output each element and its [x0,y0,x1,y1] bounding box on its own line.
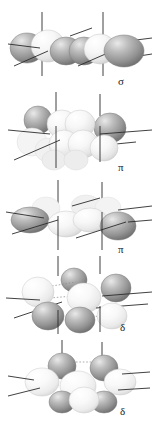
orbital-figure: σ [0,0,158,424]
pi-orbital-horizontal-diagram [0,176,158,260]
orbital-label-sigma: σ [118,76,124,87]
orbital-panel-pi-2: π [0,176,158,260]
orbital-panel-delta-2: δ [0,338,158,424]
orbital-label-delta-1: δ [120,322,125,333]
delta-orbital-1-diagram [0,254,158,340]
orbital-label-pi-1: π [118,162,124,173]
orbital-panel-pi-1: π [0,90,158,178]
sigma-orbital-diagram [0,4,158,92]
pi-orbital-vertical-diagram [0,90,158,178]
lobe-group-right [100,212,136,240]
orbital-label-delta-2: δ [120,406,125,417]
lobe-group-bottom [49,387,117,413]
orbital-panel-delta-1: δ [0,254,158,340]
lobe-group-left [11,207,49,233]
lobe-group-right [104,35,144,67]
delta-orbital-2-diagram [0,338,158,424]
orbital-panel-sigma: σ [0,4,158,92]
